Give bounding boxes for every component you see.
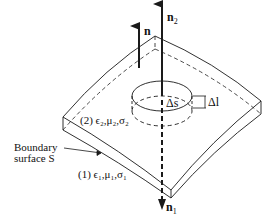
label-n2: n2 <box>167 11 178 26</box>
label-delta-s: Δs <box>166 97 178 109</box>
label-n1: n1 <box>166 201 177 216</box>
label-n1-sub: 1 <box>173 207 177 216</box>
delta-l-bracket <box>193 96 206 108</box>
label-delta-l: Δl <box>208 96 219 108</box>
label-region-1: (1) ϵ₁,μ₁,σ₁ <box>78 169 127 180</box>
diagram-canvas <box>0 0 275 217</box>
label-n1-text: n <box>166 200 173 214</box>
label-boundary-line2: surface S <box>14 153 57 164</box>
normal-n1-arrowhead <box>158 199 166 210</box>
label-boundary-surface: Boundary surface S <box>14 142 57 164</box>
label-region-2: (2) ϵ₂,μ₂,σ₂ <box>80 115 129 126</box>
label-n: n <box>144 25 151 37</box>
label-n2-text: n <box>167 10 174 24</box>
label-n2-sub: 2 <box>174 17 178 26</box>
label-n-text: n <box>144 24 151 38</box>
